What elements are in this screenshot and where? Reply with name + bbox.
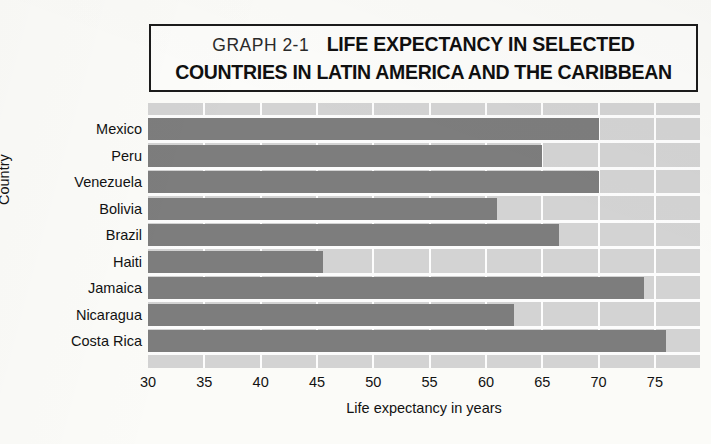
row-separator [148, 246, 700, 249]
y-axis-tick-label: Peru [22, 148, 142, 164]
chart-title-text-line-2: COUNTRIES IN LATIN AMERICA AND THE CARIB… [151, 61, 696, 84]
row-separator [148, 193, 700, 196]
y-axis-tick-labels: MexicoPeruVenezuelaBoliviaBrazilHaitiJam… [18, 103, 142, 368]
row-separator [148, 326, 700, 329]
x-axis-tick-label: 50 [353, 374, 393, 390]
y-axis-tick-label: Haiti [22, 254, 142, 270]
graph-number-label: GRAPH 2-1 [212, 35, 309, 55]
row-separator [148, 167, 700, 170]
bar [148, 171, 599, 193]
chart-page: GRAPH 2-1 LIFE EXPECTANCY IN SELECTED CO… [0, 0, 711, 444]
bar [148, 198, 497, 220]
chart-title-line-1: GRAPH 2-1 LIFE EXPECTANCY IN SELECTED [151, 33, 696, 56]
row-separator [148, 220, 700, 223]
row-separator [148, 115, 700, 118]
bar [148, 251, 323, 273]
x-axis-tick-label: 55 [410, 374, 450, 390]
row-separator [148, 273, 700, 276]
row-separator [148, 299, 700, 302]
x-axis-tick-label: 40 [241, 374, 281, 390]
y-axis-tick-label: Brazil [22, 227, 142, 243]
y-axis-tick-label: Jamaica [22, 280, 142, 296]
bar [148, 224, 559, 246]
chart-title-box: GRAPH 2-1 LIFE EXPECTANCY IN SELECTED CO… [149, 24, 698, 92]
y-axis-tick-label: Venezuela [22, 174, 142, 190]
y-axis-tick-label: Bolivia [22, 201, 142, 217]
x-axis-tick-label: 60 [466, 374, 506, 390]
y-axis-title: Country [0, 154, 12, 205]
row-separator [148, 140, 700, 143]
x-axis-tick-label: 75 [635, 374, 675, 390]
chart-title-text-line-1: LIFE EXPECTANCY IN SELECTED [327, 33, 635, 55]
x-axis-tick-label: 30 [128, 374, 168, 390]
y-axis-tick-label: Mexico [22, 121, 142, 137]
bar [148, 330, 666, 352]
bar [148, 277, 644, 299]
bar [148, 118, 599, 140]
x-axis-title: Life expectancy in years [148, 400, 700, 416]
x-axis-tick-label: 65 [522, 374, 562, 390]
y-axis-tick-label: Nicaragua [22, 307, 142, 323]
x-axis-tick-label: 45 [297, 374, 337, 390]
bar [148, 304, 514, 326]
y-axis-tick-label: Costa Rica [22, 333, 142, 349]
bar [148, 145, 542, 167]
x-axis-tick-label: 70 [579, 374, 619, 390]
plot-area [148, 103, 700, 368]
x-axis-tick-label: 35 [184, 374, 224, 390]
row-separator [148, 352, 700, 355]
